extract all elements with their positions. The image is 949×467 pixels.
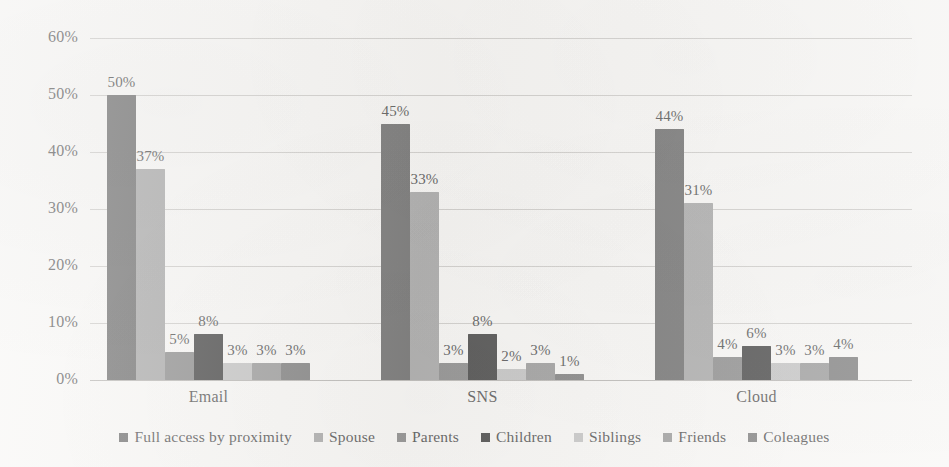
bar-value-label: 3% [273,342,318,359]
legend-label: Spouse [329,428,375,446]
y-axis-tick-label: 0% [22,370,78,388]
bar[interactable] [107,95,136,380]
legend-swatch-icon [574,433,583,442]
bar-value-label: 6% [734,325,779,342]
y-axis-tick-label: 60% [22,28,78,46]
legend-swatch-icon [314,433,323,442]
legend-label: Children [496,428,552,446]
bar-value-label: 44% [647,108,692,125]
legend-label: Parents [412,428,459,446]
x-axis-category-label: SNS [381,388,584,406]
bar-group-sns: 45%33%3%8%2%3%1% [381,38,584,380]
bar-value-label: 8% [186,313,231,330]
y-axis-tick-label: 20% [22,256,78,274]
legend-item[interactable]: Full access by proximity [119,428,292,446]
bar[interactable] [165,352,194,381]
legend-item[interactable]: Children [481,428,552,446]
chart-legend: Full access by proximitySpouseParentsChi… [0,428,949,446]
legend-item[interactable]: Friends [663,428,726,446]
bar-value-label: 50% [99,74,144,91]
bar-group-cloud: 44%31%4%6%3%3%4% [655,38,858,380]
bar-value-label: 31% [676,182,721,199]
bar-value-label: 33% [402,171,447,188]
gridline-0 [90,380,912,381]
y-axis-tick-label: 50% [22,85,78,103]
legend-swatch-icon [748,433,757,442]
bar[interactable] [713,357,742,380]
legend-item[interactable]: Siblings [574,428,641,446]
legend-swatch-icon [119,433,128,442]
bar[interactable] [439,363,468,380]
bar[interactable] [497,369,526,380]
bar[interactable] [555,374,584,380]
legend-label: Full access by proximity [134,428,292,446]
legend-item[interactable]: Parents [397,428,459,446]
bar[interactable] [771,363,800,380]
bar-value-label: 8% [460,313,505,330]
bar[interactable] [252,363,281,380]
x-axis-category-label: Cloud [655,388,858,406]
legend-swatch-icon [481,433,490,442]
x-axis-category-label: Email [107,388,310,406]
y-axis-tick-label: 10% [22,313,78,331]
bar-value-label: 37% [128,148,173,165]
plot-area: 50%37%5%8%3%3%3%45%33%3%8%2%3%1%44%31%4%… [90,38,912,380]
y-axis-tick-label: 40% [22,142,78,160]
bar[interactable] [800,363,829,380]
y-axis-tick-label: 30% [22,199,78,217]
legend-item[interactable]: Spouse [314,428,375,446]
bar[interactable] [829,357,858,380]
bar-value-label: 1% [547,353,592,370]
legend-swatch-icon [397,433,406,442]
bar[interactable] [223,363,252,380]
bar-group-email: 50%37%5%8%3%3%3% [107,38,310,380]
legend-swatch-icon [663,433,672,442]
legend-label: Friends [678,428,726,446]
bar-value-label: 4% [821,336,866,353]
legend-label: Siblings [589,428,641,446]
chart-root: 0%10%20%30%40%50%60% 50%37%5%8%3%3%3%45%… [0,0,949,467]
bar[interactable] [655,129,684,380]
bar[interactable] [136,169,165,380]
bar[interactable] [381,124,410,381]
bar-value-label: 45% [373,103,418,120]
bar[interactable] [281,363,310,380]
legend-item[interactable]: Coleagues [748,428,829,446]
legend-label: Coleagues [763,428,829,446]
bar[interactable] [684,203,713,380]
